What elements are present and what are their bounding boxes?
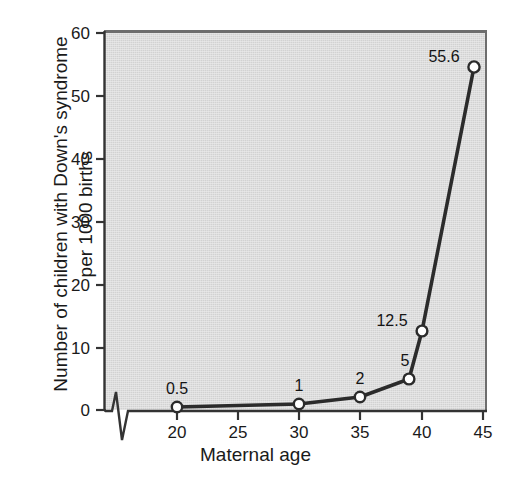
- data-label-1: 1: [286, 377, 312, 395]
- x-tick-label-20: 20: [157, 423, 197, 443]
- chart-figure: 60 50 40 30 20 10 0 20 25 30 35 40 45 0.…: [0, 0, 511, 483]
- data-point-markers: [172, 61, 480, 412]
- x-tick-label-25: 25: [218, 423, 258, 443]
- y-axis-title-line1: Number of children with Down's syndrome: [48, 14, 73, 414]
- y-axis-title: Number of children with Down's syndrome …: [48, 14, 98, 414]
- x-tick-label-40: 40: [402, 423, 442, 443]
- x-tick-label-30: 30: [279, 423, 319, 443]
- data-point-marker: [355, 392, 365, 402]
- x-tick-label-45: 45: [463, 423, 503, 443]
- data-label-0.5: 0.5: [155, 380, 199, 398]
- data-label-5: 5: [392, 352, 418, 370]
- data-point-marker: [172, 402, 182, 412]
- data-label-12.5: 12.5: [367, 312, 417, 330]
- data-point-marker: [468, 61, 479, 72]
- data-series-line: [177, 67, 474, 407]
- data-point-marker: [404, 374, 415, 385]
- data-point-marker: [417, 326, 428, 337]
- y-axis-title-line2: per 1000 births: [73, 14, 98, 414]
- data-label-2: 2: [347, 370, 373, 388]
- x-tick-label-35: 35: [340, 423, 380, 443]
- data-point-marker: [294, 399, 304, 409]
- x-axis-title: Maternal age: [0, 444, 511, 466]
- x-axis-ticks: [177, 411, 483, 420]
- data-label-55.6: 55.6: [419, 48, 469, 66]
